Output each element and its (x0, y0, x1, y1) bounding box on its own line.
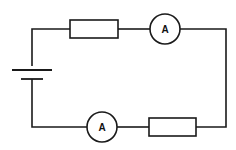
circuit-diagram: A A (0, 0, 236, 150)
battery-icon (12, 70, 52, 79)
ammeter-top-label: A (161, 24, 168, 35)
wire-bottom-left (32, 79, 87, 127)
wire-top-right (180, 29, 226, 127)
resistor-top (70, 20, 118, 38)
wire-left-top (32, 29, 70, 66)
resistor-bottom (149, 118, 196, 136)
ammeter-bottom-label: A (98, 122, 105, 133)
